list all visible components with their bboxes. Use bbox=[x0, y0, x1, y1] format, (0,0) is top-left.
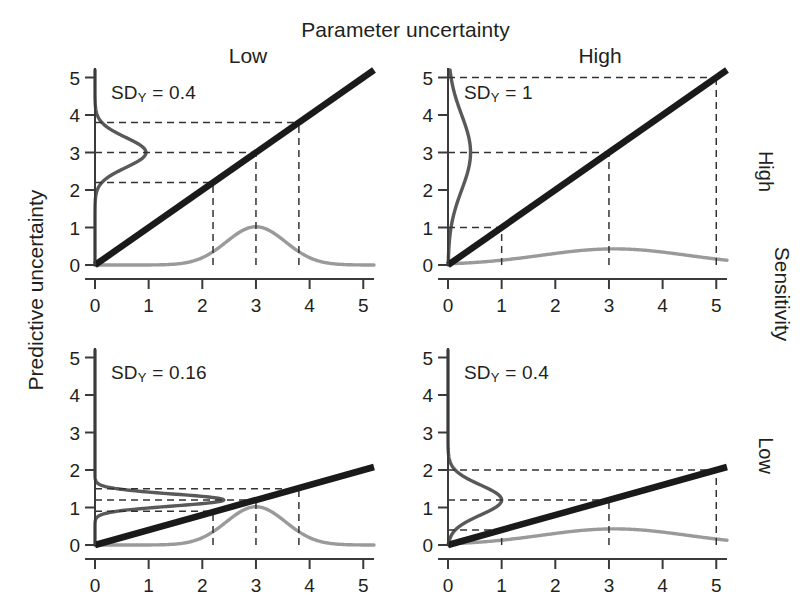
y-axis-label: Predictive uncertainty bbox=[24, 160, 48, 420]
sd-annotation-subscript: Y bbox=[138, 370, 147, 385]
x-tick-label: 5 bbox=[358, 575, 369, 596]
y-tick-label: 3 bbox=[69, 143, 80, 164]
x-tick-label: 3 bbox=[251, 575, 262, 596]
sd-annotation: SDY = 0.4 bbox=[111, 82, 196, 104]
panel-top-right: 012345012345SDY = 1 bbox=[415, 62, 735, 320]
panel-top-left: 012345012345SDY = 0.4 bbox=[62, 62, 382, 320]
y-tick-label: 1 bbox=[422, 218, 433, 239]
sd-annotation-prefix: SD bbox=[111, 362, 138, 383]
y-tick-label: 3 bbox=[422, 423, 433, 444]
y-tick-label: 5 bbox=[69, 68, 80, 89]
y-tick-label: 5 bbox=[422, 348, 433, 369]
column-group-title: Parameter uncertainty bbox=[0, 18, 811, 42]
sd-annotation-value: = 0.4 bbox=[147, 82, 196, 103]
y-tick-label: 3 bbox=[69, 423, 80, 444]
x-tick-label: 1 bbox=[496, 575, 507, 596]
y-tick-label: 2 bbox=[422, 180, 433, 201]
x-tick-label: 1 bbox=[143, 575, 154, 596]
plot-canvas: 012345012345 bbox=[415, 342, 735, 600]
y-tick-label: 0 bbox=[422, 255, 433, 276]
sd-annotation-value: = 0.16 bbox=[147, 362, 207, 383]
panel-bottom-right: 012345012345SDY = 0.4 bbox=[415, 342, 735, 600]
x-tick-label: 3 bbox=[604, 575, 615, 596]
figure-root: Parameter uncertainty Low High Predictiv… bbox=[0, 0, 811, 601]
plot-canvas: 012345012345 bbox=[62, 342, 382, 600]
sd-annotation-value: = 1 bbox=[500, 82, 533, 103]
x-tick-label: 5 bbox=[711, 575, 722, 596]
y-tick-label: 1 bbox=[69, 218, 80, 239]
sd-annotation-prefix: SD bbox=[464, 82, 491, 103]
row-header-high: High bbox=[754, 137, 777, 207]
y-tick-label: 0 bbox=[69, 255, 80, 276]
y-tick-label: 1 bbox=[422, 498, 433, 519]
sd-annotation-prefix: SD bbox=[464, 362, 491, 383]
plot-canvas: 012345012345 bbox=[62, 62, 382, 320]
x-tick-label: 5 bbox=[711, 295, 722, 316]
input-density-curve bbox=[95, 507, 374, 545]
sd-annotation-value: = 0.4 bbox=[500, 362, 549, 383]
x-tick-label: 4 bbox=[657, 575, 668, 596]
row-header-low: Low bbox=[754, 421, 777, 491]
y-tick-label: 2 bbox=[422, 460, 433, 481]
y-tick-label: 3 bbox=[422, 143, 433, 164]
sd-annotation-prefix: SD bbox=[111, 82, 138, 103]
sd-annotation: SDY = 0.16 bbox=[111, 362, 207, 384]
x-tick-label: 5 bbox=[358, 295, 369, 316]
x-tick-label: 2 bbox=[550, 295, 561, 316]
sd-annotation: SDY = 0.4 bbox=[464, 362, 549, 384]
sd-annotation: SDY = 1 bbox=[464, 82, 533, 104]
x-tick-label: 0 bbox=[90, 295, 101, 316]
x-tick-label: 4 bbox=[304, 295, 315, 316]
y-tick-label: 4 bbox=[69, 385, 80, 406]
x-tick-label: 2 bbox=[197, 295, 208, 316]
row-group-title: Sensitivity bbox=[770, 234, 794, 354]
x-tick-label: 0 bbox=[443, 575, 454, 596]
x-tick-label: 2 bbox=[550, 575, 561, 596]
x-tick-label: 3 bbox=[604, 295, 615, 316]
x-tick-label: 4 bbox=[657, 295, 668, 316]
input-density-curve bbox=[448, 249, 727, 264]
y-tick-label: 0 bbox=[69, 535, 80, 556]
x-tick-label: 2 bbox=[197, 575, 208, 596]
y-tick-label: 1 bbox=[69, 498, 80, 519]
plot-canvas: 012345012345 bbox=[415, 62, 735, 320]
y-tick-label: 5 bbox=[69, 348, 80, 369]
y-tick-label: 4 bbox=[422, 105, 433, 126]
transfer-line bbox=[95, 467, 374, 545]
sd-annotation-subscript: Y bbox=[138, 90, 147, 105]
x-tick-label: 0 bbox=[90, 575, 101, 596]
x-tick-label: 0 bbox=[443, 295, 454, 316]
y-tick-label: 4 bbox=[422, 385, 433, 406]
x-tick-label: 4 bbox=[304, 575, 315, 596]
sd-annotation-subscript: Y bbox=[491, 90, 500, 105]
sd-annotation-subscript: Y bbox=[491, 370, 500, 385]
x-tick-label: 1 bbox=[143, 295, 154, 316]
x-tick-label: 3 bbox=[251, 295, 262, 316]
y-tick-label: 2 bbox=[69, 460, 80, 481]
y-tick-label: 2 bbox=[69, 180, 80, 201]
y-tick-label: 5 bbox=[422, 68, 433, 89]
x-tick-label: 1 bbox=[496, 295, 507, 316]
panel-bottom-left: 012345012345SDY = 0.16 bbox=[62, 342, 382, 600]
y-tick-label: 4 bbox=[69, 105, 80, 126]
y-tick-label: 0 bbox=[422, 535, 433, 556]
